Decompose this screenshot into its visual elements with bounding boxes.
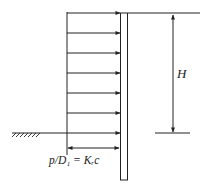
diagram-canvas: [0, 0, 205, 188]
ground-hatch-icon: [12, 133, 40, 137]
pressure-arrows: [67, 13, 120, 148]
retaining-wall: [121, 13, 128, 180]
pressure-equation-label: p/D₁ = Kᵣc: [49, 154, 99, 166]
height-label: H: [177, 66, 186, 82]
